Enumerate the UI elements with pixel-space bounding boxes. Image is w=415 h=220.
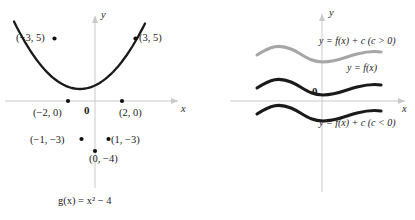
x-axis <box>5 98 178 104</box>
function-caption: g(x) = x² − 4 <box>58 195 111 206</box>
x-axis <box>230 98 405 104</box>
point-neg1-neg3 <box>79 137 83 141</box>
point-neg3-5 <box>52 36 56 40</box>
y-axis-label: y <box>329 8 334 19</box>
point-label-neg1-neg3: (−1, −3) <box>30 135 65 146</box>
vertical-shift-panel: y x 0 y = f(x) + c (c > 0) y = f(x) y = … <box>205 0 415 220</box>
figure-canvas: y x 0 (−3, 5) (3, 5) (−2, 0) (2, 0) (−1,… <box>0 0 415 220</box>
origin-label: 0 <box>312 86 318 97</box>
shift-graph <box>205 0 415 220</box>
curve-label-shift-down: y = f(x) + c (c < 0) <box>319 118 396 128</box>
point-label-neg2-0: (−2, 0) <box>33 108 62 119</box>
parabola-panel: y x 0 (−3, 5) (3, 5) (−2, 0) (2, 0) (−1,… <box>0 0 210 220</box>
curve-label-base: y = f(x) <box>347 63 377 73</box>
point-label-neg3-5: (−3, 5) <box>16 33 45 44</box>
curve-shift-up <box>257 46 381 62</box>
point-1-neg3 <box>106 137 110 141</box>
point-label-2-0: (2, 0) <box>119 108 142 119</box>
curve-base <box>257 79 381 95</box>
origin-label: 0 <box>84 105 90 116</box>
x-axis-label: x <box>402 104 407 115</box>
x-axis-label: x <box>181 104 186 115</box>
point-neg2-0 <box>66 99 70 103</box>
point-2-0 <box>120 99 124 103</box>
curve-label-shift-up: y = f(x) + c (c > 0) <box>319 36 396 46</box>
point-label-0-neg4: (0, −4) <box>89 154 118 165</box>
point-3-5 <box>133 36 137 40</box>
point-label-1-neg3: (1, −3) <box>111 135 140 146</box>
y-axis-label: y <box>101 10 106 21</box>
point-label-3-5: (3, 5) <box>139 33 162 44</box>
